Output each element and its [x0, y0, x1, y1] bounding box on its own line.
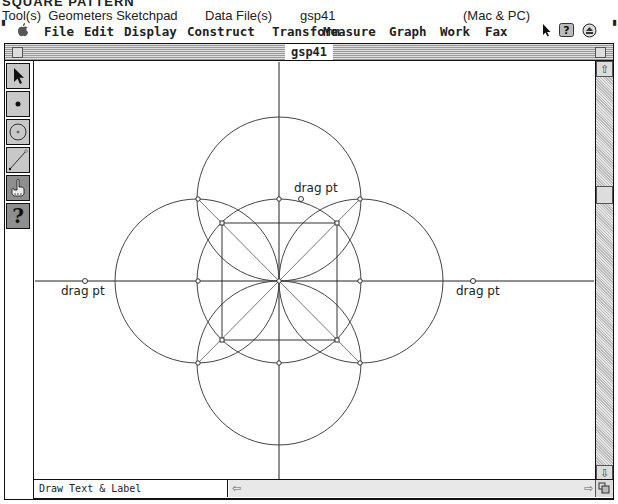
selection-arrow-tool[interactable]: [6, 63, 30, 89]
screen-corner-left: ▘: [2, 20, 8, 31]
bottom-bar: Draw Text & Label ⇦ ⇨: [33, 479, 613, 498]
scroll-left-button[interactable]: ⇦: [229, 480, 243, 497]
hand-icon: [10, 178, 26, 198]
point-icon: [13, 99, 23, 109]
object-info-tool[interactable]: ?: [6, 203, 30, 229]
arrow-icon: [11, 67, 25, 85]
toolbox: ?: [5, 61, 34, 499]
svg-text:?: ?: [563, 24, 569, 37]
text-tool[interactable]: [6, 175, 30, 201]
scroll-up-button[interactable]: ⇧: [596, 61, 613, 77]
segment-icon: [8, 149, 28, 171]
drag-label-right: drag pt: [456, 284, 500, 298]
window-title: gsp41: [285, 44, 333, 60]
sketch-window: gsp41 ?: [4, 43, 614, 500]
straightedge-tool[interactable]: [6, 147, 30, 173]
scroll-thumb[interactable]: [596, 186, 613, 204]
drag-point-top[interactable]: [299, 197, 304, 202]
help-balloon-icon[interactable]: ?: [559, 23, 574, 40]
close-box[interactable]: [12, 47, 23, 58]
menu-work[interactable]: Work: [440, 24, 470, 39]
question-icon: ?: [12, 204, 24, 228]
point-tool[interactable]: [6, 91, 30, 117]
grow-box[interactable]: [595, 480, 613, 497]
down-arrow-icon: ⇩: [600, 467, 609, 479]
tools-value: Geometers Sketchpad: [48, 8, 177, 23]
menu-display[interactable]: Display: [124, 24, 177, 39]
drag-label-top: drag pt: [294, 181, 338, 195]
pointer-icon[interactable]: [542, 24, 552, 40]
horizontal-scrollbar[interactable]: ⇦ ⇨: [229, 480, 595, 497]
platform-label: (Mac & PC): [463, 8, 530, 23]
drag-point-left[interactable]: [83, 279, 88, 284]
sketch-canvas[interactable]: drag pt drag pt drag pt: [34, 61, 594, 481]
datafile-value: gsp41: [300, 8, 335, 23]
square-pattern-figure: drag pt drag pt drag pt: [34, 61, 594, 481]
menu-graph[interactable]: Graph: [389, 24, 427, 39]
tools-label: Tool(s) Geometers Sketchpad: [2, 8, 178, 23]
left-arrow-icon: ⇦: [232, 482, 241, 494]
resize-icon: [596, 480, 612, 495]
window-titlebar[interactable]: gsp41: [5, 44, 613, 61]
drag-point-right[interactable]: [471, 279, 476, 284]
right-arrow-icon: ⇨: [584, 482, 593, 494]
menu-edit[interactable]: Edit: [84, 24, 114, 39]
up-arrow-icon: ⇧: [600, 63, 609, 75]
menu-bar: ▘ File Edit Display Construct Transform …: [0, 22, 618, 40]
application-menu-icon[interactable]: [582, 23, 597, 41]
scroll-right-button[interactable]: ⇨: [581, 480, 595, 497]
drag-label-left: drag pt: [61, 284, 105, 298]
vertical-scrollbar[interactable]: ⇧ ⇩: [595, 61, 613, 481]
menu-measure[interactable]: Measure: [323, 24, 376, 39]
compass-tool[interactable]: [6, 119, 30, 145]
screen-corner-right: ▝: [610, 20, 616, 31]
menu-file[interactable]: File: [44, 24, 74, 39]
menu-construct[interactable]: Construct: [187, 24, 255, 39]
status-message: Draw Text & Label: [33, 480, 228, 497]
datafile-label: Data File(s): [205, 8, 272, 23]
zoom-box[interactable]: [595, 47, 606, 58]
circle-icon: [8, 122, 28, 142]
menu-fax[interactable]: Fax: [485, 24, 508, 39]
apple-menu-icon[interactable]: [17, 23, 29, 40]
